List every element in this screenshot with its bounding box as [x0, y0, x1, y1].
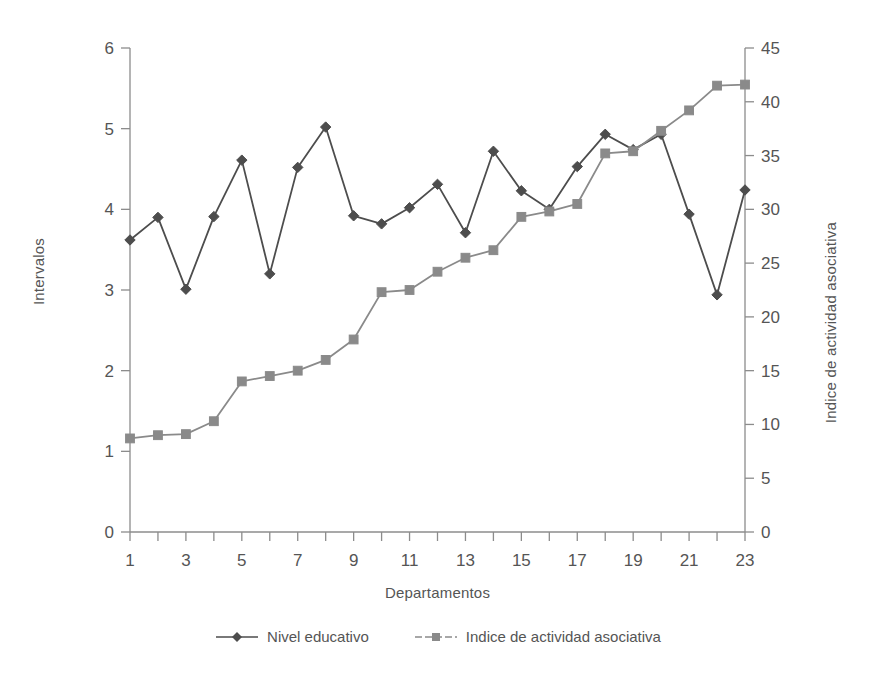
series-marker-diamond: [320, 122, 330, 132]
chart-series: [125, 80, 750, 443]
series-marker-square: [629, 147, 638, 156]
series-marker-square: [685, 106, 694, 115]
series-marker-diamond: [712, 290, 722, 300]
series-marker-square: [517, 212, 526, 221]
x-axis-tick-label: 9: [349, 551, 358, 570]
x-axis-tick-label: 3: [181, 551, 190, 570]
series-marker-square: [321, 356, 330, 365]
series-marker-square: [433, 267, 442, 276]
series-marker-diamond: [376, 219, 386, 229]
series-marker-diamond: [740, 185, 750, 195]
chart-legend: Nivel educativo Indice de actividad asoc…: [0, 628, 875, 645]
series-marker-diamond: [293, 162, 303, 172]
series-marker-square: [349, 335, 358, 344]
y-axis-right-tick-label: 10: [761, 415, 780, 434]
series-marker-square: [265, 372, 274, 381]
x-axis-tick-label: 23: [736, 551, 755, 570]
y-axis-left-tick-label: 5: [105, 120, 114, 139]
y-axis-left-tick-label: 2: [105, 362, 114, 381]
series-marker-square: [182, 430, 191, 439]
legend-label-nivel-educativo: Nivel educativo: [267, 628, 369, 645]
x-axis-tick-label: 17: [568, 551, 587, 570]
series-marker-square: [461, 253, 470, 262]
series-marker-square: [237, 377, 246, 386]
x-axis-tick-label: 15: [512, 551, 531, 570]
series-marker-diamond: [684, 209, 694, 219]
legend-item-indice-actividad[interactable]: Indice de actividad asociativa: [413, 628, 661, 645]
y-axis-right-tick-label: 30: [761, 200, 780, 219]
x-axis-tick-label: 21: [680, 551, 699, 570]
y-axis-right-tick-label: 15: [761, 362, 780, 381]
series-marker-diamond: [460, 228, 470, 238]
x-axis-title: Departamentos: [0, 584, 875, 601]
y-axis-right-tick-label: 35: [761, 147, 780, 166]
series-marker-diamond: [209, 211, 219, 221]
x-axis-tick-label: 13: [456, 551, 475, 570]
y-axis-right-tick-label: 20: [761, 308, 780, 327]
series-line-2: [130, 85, 745, 439]
series-marker-square: [601, 149, 610, 158]
series-marker-square: [489, 246, 498, 255]
series-marker-square: [209, 417, 218, 426]
legend-label-indice-actividad: Indice de actividad asociativa: [466, 628, 661, 645]
x-axis-tick-label: 19: [624, 551, 643, 570]
series-marker-square: [657, 126, 666, 135]
series-marker-square: [377, 288, 386, 297]
series-marker-square: [545, 207, 554, 216]
series-marker-square: [405, 286, 414, 295]
series-marker-square: [713, 81, 722, 90]
series-marker-diamond: [348, 211, 358, 221]
x-axis-tick-label: 11: [401, 551, 419, 570]
y-axis-right-tick-label: 25: [761, 254, 780, 273]
series-marker-diamond: [237, 155, 247, 165]
chart-plot-area: 0123456051015202530354045135791113151719…: [0, 0, 875, 675]
legend-marker-square-icon: [413, 630, 459, 644]
series-marker-square: [126, 434, 135, 443]
x-axis-tick-label: 5: [237, 551, 246, 570]
y-axis-left-tick-label: 1: [105, 442, 114, 461]
series-marker-square: [573, 200, 582, 209]
y-axis-right-tick-label: 45: [761, 39, 780, 58]
legend-marker-diamond-icon: [214, 630, 260, 644]
y-axis-right-tick-label: 40: [761, 93, 780, 112]
y-axis-right-title: Indice de actividad asociativa: [822, 222, 839, 423]
y-axis-left-tick-label: 3: [105, 281, 114, 300]
y-axis-left-tick-label: 6: [105, 39, 114, 58]
series-marker-square: [741, 80, 750, 89]
y-axis-left-tick-label: 4: [105, 200, 114, 219]
legend-item-nivel-educativo[interactable]: Nivel educativo: [214, 628, 369, 645]
series-marker-square: [293, 366, 302, 375]
y-axis-right-tick-label: 0: [761, 523, 770, 542]
chart-figure: 0123456051015202530354045135791113151719…: [0, 0, 875, 675]
y-axis-left-tick-label: 0: [105, 523, 114, 542]
y-axis-right-tick-label: 5: [761, 469, 770, 488]
x-axis-tick-label: 1: [125, 551, 134, 570]
series-marker-diamond: [265, 269, 275, 279]
x-axis-tick-label: 7: [293, 551, 302, 570]
series-marker-diamond: [181, 284, 191, 294]
y-axis-left-title: Intervalos: [30, 238, 47, 305]
series-marker-square: [154, 431, 163, 440]
